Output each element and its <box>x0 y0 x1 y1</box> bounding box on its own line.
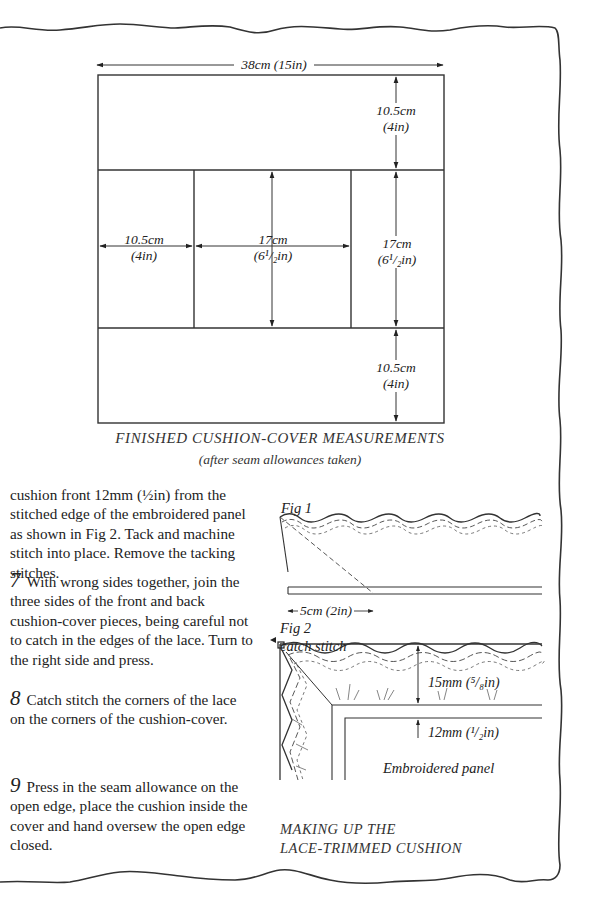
step-text: Catch stitch the corners of the lace on … <box>10 691 237 727</box>
top-band-label: 10.5cm (4in) <box>370 103 422 135</box>
width-label: 38cm (15in) <box>234 57 314 73</box>
bottom-band-cm: 10.5cm <box>370 360 422 376</box>
center-panel-in: (6¹/₂in) <box>246 248 300 264</box>
right-panel-label: 17cm (6¹/₂in) <box>370 236 424 268</box>
step-number: 8 <box>10 686 21 710</box>
diagram-subcaption: (after seam allowances taken) <box>100 452 460 468</box>
step-text: Press in the seam allowance on the open … <box>10 778 247 853</box>
step-number: 9 <box>10 773 21 797</box>
fig2-label: Fig 2 <box>280 620 311 637</box>
fig2-lace-measure: 15mm (⁵/₈in) <box>428 675 500 691</box>
bottom-band-label: 10.5cm (4in) <box>370 360 422 392</box>
bottom-band-in: (4in) <box>370 376 422 392</box>
diagram-caption: FINISHED CUSHION-COVER MEASUREMENTS <box>100 430 460 447</box>
figures-caption-line1: MAKING UP THE <box>280 820 462 839</box>
fig1-drawing <box>280 513 543 594</box>
lace-figures <box>270 480 550 830</box>
fig2-offset-measure: 12mm (¹/₂in) <box>428 725 499 741</box>
top-band-cm: 10.5cm <box>370 103 422 119</box>
left-panel-cm: 10.5cm <box>116 232 172 248</box>
top-band-in: (4in) <box>370 119 422 135</box>
right-panel-cm: 17cm <box>370 236 424 252</box>
figures-caption-line2: LACE-TRIMMED CUSHION <box>280 839 462 858</box>
left-panel-in: (4in) <box>116 248 172 264</box>
instruction-step-9: 9Press in the seam allowance on the open… <box>10 776 255 855</box>
right-panel-in: (6¹/₂in) <box>370 252 424 268</box>
center-panel-cm: 17cm <box>246 232 300 248</box>
center-panel-label: 17cm (6¹/₂in) <box>246 232 300 264</box>
instruction-continuation: cushion front 12mm (½in) from the stitch… <box>10 485 255 582</box>
left-panel-label: 10.5cm (4in) <box>116 232 172 264</box>
step-number: 7 <box>10 568 21 592</box>
step-text: With wrong sides together, join the thre… <box>10 573 253 668</box>
instruction-step-8: 8Catch stitch the corners of the lace on… <box>10 689 255 729</box>
instruction-step-7: 7With wrong sides together, join the thr… <box>10 571 255 669</box>
fig2-drawing <box>270 637 544 780</box>
embroidered-panel-label: Embroidered panel <box>383 760 494 777</box>
catch-stitch-label: catch stitch <box>280 638 346 655</box>
figures-caption: MAKING UP THE LACE-TRIMMED CUSHION <box>280 820 462 858</box>
fig1-measure: 5cm (2in) <box>298 603 354 619</box>
